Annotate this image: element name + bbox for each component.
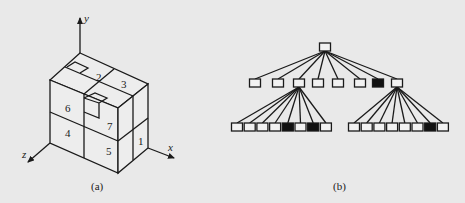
tree-edge <box>255 51 325 79</box>
region-label-1: 1 <box>138 135 144 147</box>
octree-cube-diagram: y z x 1 2 3 4 5 6 7 (a) <box>21 12 174 193</box>
y-axis-label: y <box>83 12 89 24</box>
region-label-4: 4 <box>65 127 71 139</box>
octree-tree-diagram <box>232 43 449 131</box>
z-axis <box>28 143 50 162</box>
tree-level2-right-node <box>387 123 398 131</box>
tree-level1-node <box>373 79 384 87</box>
tree-edge <box>299 87 326 123</box>
tree-edge <box>354 87 397 123</box>
tree-level2-left-node <box>270 123 281 131</box>
figure: y z x 1 2 3 4 5 6 7 (a) (b) <box>0 0 465 203</box>
tree-level2-right-node <box>412 123 423 131</box>
tree-edge <box>299 87 301 123</box>
tree-level1-node <box>294 79 305 87</box>
region-label-6: 6 <box>65 102 71 114</box>
tree-level1-node <box>355 79 366 87</box>
tree-level2-right-node <box>425 123 436 131</box>
tree-edge <box>299 87 313 123</box>
tree-level1-node <box>392 79 403 87</box>
tree-level2-left-node <box>282 123 293 131</box>
tree-level2-left-node <box>244 123 255 131</box>
tree-level1-node <box>333 79 344 87</box>
tree-edge <box>278 51 325 79</box>
tree-edge <box>275 87 299 123</box>
tree-edge <box>397 87 430 123</box>
tree-level2-left-node <box>308 123 319 131</box>
tree-level1-node <box>250 79 261 87</box>
tree-edge <box>250 87 299 123</box>
tree-level2-right-node <box>374 123 385 131</box>
x-axis-label: x <box>167 141 173 153</box>
tree-level2-right-node <box>437 123 448 131</box>
tree-edge <box>325 51 378 79</box>
tree-level2-left-node <box>320 123 331 131</box>
tree-level2-left-node <box>232 123 243 131</box>
tree-level2-right-node <box>399 123 410 131</box>
tree-level1-node <box>313 79 324 87</box>
region-label-3: 3 <box>121 78 127 90</box>
tree-level1-node <box>273 79 284 87</box>
z-axis-label: z <box>21 148 27 160</box>
tree-root-node <box>320 43 331 51</box>
tree-level2-left-node <box>257 123 268 131</box>
region-label-5: 5 <box>106 145 112 157</box>
tree-level2-right-node <box>349 123 360 131</box>
tree-edge <box>325 51 360 79</box>
caption-b: (b) <box>333 180 346 193</box>
region-label-2: 2 <box>96 71 102 83</box>
tree-level2-right-node <box>361 123 372 131</box>
caption-a: (a) <box>91 180 104 193</box>
region-label-7: 7 <box>107 120 113 132</box>
tree-level2-left-node <box>295 123 306 131</box>
